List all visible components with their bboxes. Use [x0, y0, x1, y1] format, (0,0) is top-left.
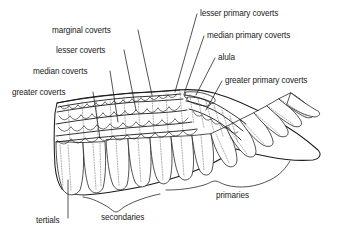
wing-illustration: marginal coverts lesser coverts median c… [0, 0, 339, 242]
label-tertials: tertials [36, 216, 59, 225]
tertials-group [56, 142, 106, 195]
label-marginal-coverts: marginal coverts [52, 26, 111, 35]
wing-anatomy-diagram: marginal coverts lesser coverts median c… [0, 0, 339, 242]
label-median-primary-coverts: median primary coverts [207, 31, 290, 40]
label-greater-coverts: greater coverts [12, 88, 65, 97]
leader-marginal-coverts [138, 30, 152, 95]
secondaries-brace [83, 194, 160, 212]
label-lesser-primary-coverts: lesser primary coverts [200, 9, 278, 18]
leader-alula [196, 58, 215, 95]
leader-lesser-primary-coverts [175, 14, 197, 92]
label-greater-primary-coverts: greater primary coverts [225, 76, 307, 85]
label-median-coverts: median coverts [33, 67, 87, 76]
label-alula: alula [218, 53, 235, 62]
secondaries-group [106, 134, 214, 190]
label-secondaries: secondaries [101, 213, 144, 222]
label-primaries: primaries [216, 191, 249, 200]
label-lesser-coverts: lesser coverts [56, 46, 105, 55]
